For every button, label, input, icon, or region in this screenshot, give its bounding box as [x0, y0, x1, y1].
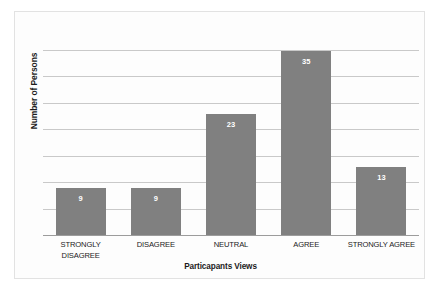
x-axis-tick-label: DISAGREE — [118, 240, 193, 251]
bar-series: 99233513 — [43, 24, 419, 236]
bar-value-label: 35 — [281, 57, 331, 66]
bar-slot: 9 — [43, 24, 118, 236]
bar[interactable]: 23 — [206, 114, 256, 236]
plot-area: 99233513 — [43, 24, 419, 236]
bar-slot: 13 — [344, 24, 419, 236]
bar[interactable]: 13 — [356, 167, 406, 236]
x-axis-tick-label: AGREE — [269, 240, 344, 251]
chart-container: Number of Persons 99233513 STRONGLYDISAG… — [14, 11, 425, 279]
y-axis-title: Number of Persons — [29, 36, 39, 146]
x-axis-line — [43, 235, 419, 237]
x-axis-tick-label: STRONGLY AGREE — [344, 240, 419, 251]
bar-value-label: 13 — [356, 173, 406, 182]
bar[interactable]: 9 — [131, 188, 181, 236]
bar-slot: 35 — [269, 24, 344, 236]
x-axis-tick-label: STRONGLYDISAGREE — [43, 240, 118, 261]
bar-value-label: 23 — [206, 120, 256, 129]
bar[interactable]: 9 — [56, 188, 106, 236]
bar-slot: 9 — [118, 24, 193, 236]
x-axis-title: Particapants Views — [15, 262, 426, 271]
bar-value-label: 9 — [131, 194, 181, 203]
bar-slot: 23 — [193, 24, 268, 236]
bar-value-label: 9 — [56, 194, 106, 203]
bar[interactable]: 35 — [281, 51, 331, 237]
x-axis-tick-label: NEUTRAL — [193, 240, 268, 251]
